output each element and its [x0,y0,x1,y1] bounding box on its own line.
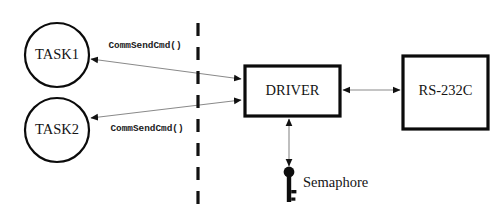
system-architecture-diagram: CommSendCmd() CommSendCmd() TASK1 TASK2 [0,0,502,219]
edge-task2-driver-label: CommSendCmd() [110,123,183,134]
diagram-canvas: CommSendCmd() CommSendCmd() TASK1 TASK2 [0,0,502,219]
node-rs232c-label: RS-232C [419,82,473,98]
node-driver[interactable]: DRIVER [245,66,340,116]
edge-task1-driver: CommSendCmd() [91,40,241,79]
node-driver-label: DRIVER [266,82,320,98]
node-task2[interactable]: TASK2 [25,98,89,162]
node-task1[interactable]: TASK1 [25,23,89,87]
key-icon-tooth-lower [291,198,295,201]
key-icon-stem [287,174,291,202]
node-task2-label: TASK2 [35,121,79,137]
edge-task1-driver-line [91,59,241,79]
semaphore-label: Semaphore [303,174,368,190]
key-icon [284,167,297,202]
edge-task2-driver: CommSendCmd() [91,100,241,134]
node-task1-label: TASK1 [35,46,79,62]
key-icon-tooth-upper [291,190,296,193]
edge-task2-driver-line [91,100,241,118]
node-rs232c[interactable]: RS-232C [403,56,488,129]
edge-task1-driver-label: CommSendCmd() [108,40,181,51]
semaphore-group[interactable]: Semaphore [284,167,369,202]
